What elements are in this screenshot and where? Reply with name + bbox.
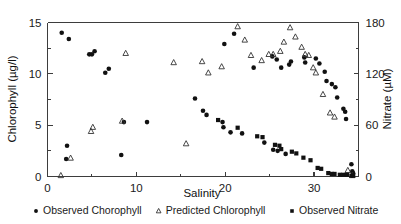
x-axis-title: Salinity <box>183 187 220 199</box>
y-tick-label-left: 15 <box>29 17 42 29</box>
data-point <box>327 110 333 115</box>
data-point <box>281 39 287 44</box>
data-point <box>183 141 189 146</box>
data-point <box>317 61 322 66</box>
legend-marker-filled-circle <box>34 209 38 213</box>
series-observed-chorophyll <box>59 30 355 175</box>
legend-item: Predicted Chlorophyll <box>156 204 265 216</box>
data-point <box>294 151 298 155</box>
data-point <box>236 126 240 130</box>
data-point <box>344 117 349 122</box>
chart-legend: Observed ChorophyllPredicted Chlorophyll… <box>34 204 378 216</box>
data-point <box>274 57 279 62</box>
data-point <box>216 118 220 122</box>
data-point <box>345 167 351 172</box>
data-point <box>283 152 288 157</box>
data-point <box>303 60 308 65</box>
y-tick-label-right: 180 <box>366 17 385 29</box>
data-point <box>290 150 294 154</box>
data-point <box>313 70 319 75</box>
data-point <box>235 24 241 29</box>
chart-figure: 0102030051015060120180 Salinity Chloroph… <box>0 0 401 224</box>
data-point <box>332 172 336 176</box>
axis-ticks <box>48 23 359 177</box>
data-point <box>171 60 177 65</box>
data-point <box>293 34 299 39</box>
legend-label: Predicted Chlorophyll <box>166 204 266 216</box>
y-axis-title-left: Chlorophyll (µg/l) <box>6 55 18 142</box>
data-point <box>206 70 212 75</box>
data-point <box>232 31 237 36</box>
data-point <box>335 95 340 100</box>
legend-label: Observed Chorophyll <box>43 204 142 216</box>
legend-marker-open-triangle <box>156 208 161 212</box>
data-point <box>279 65 284 70</box>
data-point <box>221 125 226 130</box>
data-point <box>287 25 293 30</box>
data-point <box>222 42 227 47</box>
y-tick-label-right: 60 <box>366 119 379 131</box>
data-point <box>251 65 256 70</box>
data-point <box>145 120 150 125</box>
legend-marker-filled-square <box>290 209 294 213</box>
data-point <box>319 167 323 171</box>
data-point <box>299 44 305 49</box>
data-point <box>343 110 348 115</box>
y-tick-label-left: 10 <box>29 68 42 80</box>
data-point <box>345 173 349 177</box>
data-point <box>92 49 97 54</box>
x-tick-label: 0 <box>44 182 50 194</box>
data-point <box>308 158 312 162</box>
x-tick-label: 30 <box>308 182 321 194</box>
data-point <box>351 174 355 178</box>
legend-item: Observed Chorophyll <box>34 204 142 216</box>
data-point <box>260 135 264 139</box>
data-point <box>103 71 108 76</box>
data-point <box>65 143 70 148</box>
data-point <box>273 143 277 147</box>
data-point <box>199 59 205 64</box>
data-point <box>310 65 316 70</box>
data-point <box>219 64 225 69</box>
data-point <box>314 56 319 61</box>
data-point <box>320 91 326 96</box>
data-point <box>349 162 354 167</box>
y-tick-label-right: 0 <box>366 171 372 183</box>
data-point <box>271 148 276 153</box>
axis-tick-labels: 0102030051015060120180 <box>29 17 385 194</box>
data-point <box>242 37 248 42</box>
data-point <box>59 30 64 35</box>
data-point <box>90 124 96 129</box>
data-point <box>259 57 265 62</box>
data-point <box>228 130 233 135</box>
data-point <box>278 48 284 53</box>
data-point <box>204 113 209 118</box>
data-point <box>201 108 206 113</box>
data-point <box>248 52 254 57</box>
data-point <box>255 134 259 138</box>
series-observed-nitrate <box>216 118 355 178</box>
data-point <box>289 59 294 64</box>
legend-label: Observed Nitrate <box>299 204 379 216</box>
y-tick-label-left: 0 <box>35 171 41 183</box>
y-tick-label-left: 5 <box>35 119 41 131</box>
legend-item: Observed Nitrate <box>290 204 378 216</box>
data-points <box>58 24 355 178</box>
data-point <box>240 131 245 136</box>
data-point <box>279 147 283 151</box>
scatter-plot: 0102030051015060120180 Salinity Chloroph… <box>0 0 401 224</box>
data-point <box>67 37 72 42</box>
data-point <box>107 66 112 71</box>
data-point <box>262 140 267 145</box>
data-point <box>193 96 198 101</box>
data-point <box>220 120 225 125</box>
data-point <box>324 79 329 84</box>
plot-frame <box>48 23 359 177</box>
data-point <box>64 157 69 162</box>
data-point <box>322 69 327 74</box>
data-point <box>333 85 338 90</box>
x-tick-label: 10 <box>130 182 143 194</box>
y-axis-title-right: Nitrate (µM) <box>381 68 393 129</box>
series-predicted-chlorophyll <box>58 24 355 178</box>
data-point <box>330 82 335 87</box>
